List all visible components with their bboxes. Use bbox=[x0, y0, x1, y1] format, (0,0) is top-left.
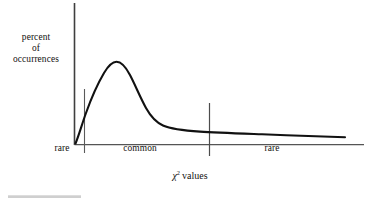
chi-square-figure: percent of occurrences rare common rare … bbox=[0, 0, 376, 201]
scan-artifact-line bbox=[8, 195, 81, 198]
region-label-rare-right: rare bbox=[253, 143, 291, 154]
y-axis-label: percent of occurrences bbox=[4, 32, 68, 65]
x-axis-label: χ2values bbox=[138, 170, 242, 182]
y-axis-label-line-1: percent bbox=[4, 32, 68, 43]
distribution-curve bbox=[76, 62, 346, 144]
chi-exponent: 2 bbox=[177, 169, 180, 176]
y-axis-label-line-2: of bbox=[4, 43, 68, 54]
x-axis-label-word: values bbox=[182, 170, 208, 181]
region-label-common: common bbox=[111, 143, 169, 154]
region-label-rare-left: rare bbox=[44, 143, 80, 154]
y-axis-label-line-3: occurrences bbox=[4, 54, 68, 65]
